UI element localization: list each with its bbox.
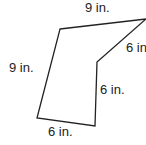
label-upper-right-side: 6 in. [126,40,146,55]
pentagon-outline [37,19,146,126]
label-top-side: 9 in. [85,0,110,15]
label-bottom-side: 6 in. [48,124,73,139]
label-left-side: 9 in. [9,60,34,75]
label-inner-right-side: 6 in. [100,82,125,97]
